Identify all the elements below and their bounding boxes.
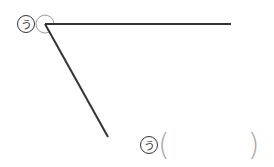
open-paren: ( [158,130,170,160]
answer-box: う ( ) [140,127,259,163]
close-paren: ) [248,130,260,160]
angle-label: う [17,15,35,33]
slanted-ray [45,24,108,137]
answer-label: う [140,136,158,154]
answer-blank[interactable] [170,133,248,157]
